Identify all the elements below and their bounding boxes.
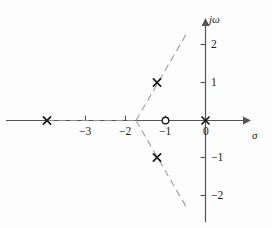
x-tick-label--2: −2 bbox=[119, 126, 131, 138]
x-tick-label-0: 0 bbox=[203, 126, 209, 138]
plot-canvas bbox=[0, 0, 272, 228]
asymptote-upper-dashed bbox=[136, 31, 188, 121]
y-tick-label--2: −2 bbox=[211, 190, 223, 202]
zero-marker-real--1 bbox=[162, 117, 169, 124]
real-axis-label: σ bbox=[252, 130, 257, 141]
x-axis-ticks bbox=[86, 116, 166, 121]
x-tick-label--1: −1 bbox=[159, 126, 171, 138]
x-tick-label--3: −3 bbox=[79, 126, 91, 138]
pole-marker-complex-lower bbox=[153, 154, 160, 161]
imaginary-axis-label-omega: ω bbox=[212, 13, 220, 25]
real-axis-arrow-icon bbox=[243, 117, 251, 125]
pole-zero-plot: −3 −2 −1 0 2 1 −1 −2 jω σ bbox=[0, 0, 272, 228]
imaginary-axis-label: jω bbox=[209, 14, 220, 25]
y-tick-label--1: −1 bbox=[211, 152, 223, 164]
y-tick-label-1: 1 bbox=[211, 77, 217, 89]
y-tick-label-2: 2 bbox=[211, 39, 217, 51]
